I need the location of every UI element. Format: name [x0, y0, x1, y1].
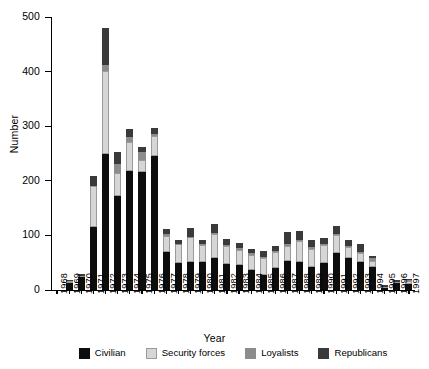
- bar-segment-loyalists: [369, 258, 376, 260]
- bar-segment-loyalists: [187, 237, 194, 238]
- x-tick-mark: [154, 290, 155, 294]
- x-tick-mark: [166, 290, 167, 294]
- bar-segment-loyalists: [102, 65, 109, 72]
- bar-1974[interactable]: [126, 129, 133, 290]
- bar-segment-republicans: [114, 152, 121, 163]
- bar-segment-republicans: [333, 226, 340, 234]
- bar-segment-republicans: [187, 228, 194, 236]
- x-tick-mark: [372, 290, 373, 294]
- legend-swatch-icon: [318, 348, 329, 359]
- x-tick-mark: [214, 290, 215, 294]
- legend-label: Civilian: [95, 348, 126, 358]
- bar-segment-republicans: [199, 240, 206, 244]
- bar-segment-security-forces: [223, 246, 230, 263]
- legend-item-loyalists[interactable]: Loyalists: [245, 348, 298, 359]
- bar-segment-security-forces: [151, 136, 158, 156]
- x-tick-mark: [323, 290, 324, 294]
- y-tick-mark: [45, 71, 52, 72]
- bar-segment-loyalists: [138, 152, 145, 159]
- x-tick-mark: [275, 290, 276, 294]
- bar-segment-loyalists: [126, 137, 133, 141]
- bar-segment-security-forces: [369, 261, 376, 268]
- bar-1976[interactable]: [151, 128, 158, 290]
- x-tick-mark: [190, 290, 191, 294]
- bar-segment-republicans: [296, 231, 303, 240]
- bar-segment-republicans: [90, 176, 97, 185]
- legend-label: Loyalists: [261, 348, 298, 358]
- bar-segment-security-forces: [175, 244, 182, 263]
- x-tick-mark: [251, 290, 252, 294]
- y-tick-label: 500: [0, 11, 40, 22]
- bar-segment-loyalists: [296, 240, 303, 241]
- bar-segment-security-forces: [333, 235, 340, 253]
- y-tick-label: 0: [0, 284, 40, 295]
- x-tick-mark: [93, 290, 94, 294]
- x-tick-mark: [105, 290, 106, 294]
- x-tick-mark: [287, 290, 288, 294]
- bar-segment-loyalists: [272, 251, 279, 252]
- bar-segment-security-forces: [357, 253, 364, 262]
- legend-item-republicans[interactable]: Republicans: [318, 348, 387, 359]
- bar-segment-loyalists: [320, 244, 327, 245]
- y-tick-label: 300: [0, 120, 40, 131]
- bar-segment-security-forces: [211, 234, 218, 258]
- x-tick-mark: [384, 290, 385, 294]
- x-tick-mark: [202, 290, 203, 294]
- bar-segment-loyalists: [163, 234, 170, 236]
- legend-swatch-icon: [146, 348, 157, 359]
- bar-segment-republicans: [126, 129, 133, 137]
- y-tick-label: 400: [0, 66, 40, 77]
- bar-segment-civilian: [126, 171, 133, 290]
- bar-segment-loyalists: [308, 247, 315, 249]
- bar-segment-republicans: [211, 224, 218, 233]
- x-tick-mark: [238, 290, 239, 294]
- bar-segment-loyalists: [236, 248, 243, 250]
- x-tick-mark: [81, 290, 82, 294]
- x-tick-mark: [299, 290, 300, 294]
- x-axis-title: Year: [0, 332, 429, 344]
- bar-segment-loyalists: [284, 244, 291, 246]
- x-tick-mark: [336, 290, 337, 294]
- y-tick-mark: [45, 126, 52, 127]
- bar-segment-republicans: [248, 249, 255, 254]
- bar-segment-republicans: [320, 238, 327, 245]
- bar-segment-republicans: [236, 243, 243, 248]
- bar-segment-loyalists: [357, 252, 364, 253]
- legend-item-civilian[interactable]: Civilian: [79, 348, 126, 359]
- bar-segment-security-forces: [308, 249, 315, 267]
- bar-segment-republicans: [138, 147, 145, 152]
- legend-swatch-icon: [79, 348, 90, 359]
- x-tick-mark: [69, 290, 70, 294]
- x-tick-mark: [56, 290, 57, 294]
- x-tick-mark: [263, 290, 264, 294]
- legend-item-security-forces[interactable]: Security forces: [146, 348, 225, 359]
- bar-segment-loyalists: [333, 234, 340, 235]
- bar-segment-security-forces: [187, 237, 194, 262]
- bar-segment-security-forces: [163, 236, 170, 252]
- bar-segment-loyalists: [151, 134, 158, 136]
- bar-segment-security-forces: [284, 246, 291, 261]
- bar-1975[interactable]: [138, 147, 145, 290]
- x-tick-mark: [141, 290, 142, 294]
- x-tick-mark: [396, 290, 397, 294]
- bar-1972[interactable]: [102, 28, 109, 290]
- x-tick-mark: [348, 290, 349, 294]
- x-tick-mark: [360, 290, 361, 294]
- bar-segment-republicans: [272, 246, 279, 251]
- bar-segment-security-forces: [345, 247, 352, 258]
- bar-segment-security-forces: [272, 252, 279, 267]
- bar-segment-republicans: [175, 240, 182, 244]
- bar-segment-loyalists: [248, 253, 255, 255]
- x-tick-mark: [226, 290, 227, 294]
- bar-segment-loyalists: [211, 233, 218, 235]
- bar-segment-civilian: [151, 156, 158, 290]
- legend-label: Republicans: [334, 348, 387, 358]
- bar-segment-security-forces: [296, 241, 303, 262]
- bar-segment-loyalists: [260, 257, 267, 258]
- bar-1973[interactable]: [114, 152, 121, 290]
- x-tick-mark: [311, 290, 312, 294]
- bar-segment-security-forces: [126, 142, 133, 171]
- legend-swatch-icon: [245, 348, 256, 359]
- y-tick-mark: [45, 17, 52, 18]
- bar-segment-loyalists: [114, 164, 121, 173]
